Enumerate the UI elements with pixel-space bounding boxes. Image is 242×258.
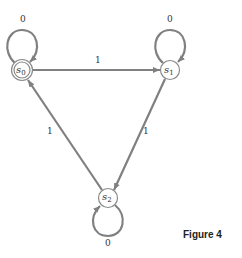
edge-label-s0-s1: 1 bbox=[95, 55, 101, 65]
transition-s2-s2: 0 bbox=[93, 205, 123, 248]
loop-label-s1: 0 bbox=[167, 14, 173, 24]
loop-label-s0: 0 bbox=[20, 14, 26, 24]
state-s2: s2 bbox=[99, 189, 118, 208]
transition-s1-s2: 1 bbox=[114, 79, 165, 190]
figure-caption: Figure 4 bbox=[183, 229, 222, 240]
transition-s0-s1: 1 bbox=[32, 55, 160, 70]
transition-s0-s0: 0 bbox=[7, 14, 37, 63]
transition-s2-s0: 1 bbox=[28, 80, 102, 190]
state-s1: s1 bbox=[161, 61, 180, 80]
state-s0: s0 bbox=[12, 60, 33, 81]
edge-label-s1-s2: 1 bbox=[143, 126, 149, 136]
loop-label-s2: 0 bbox=[105, 238, 111, 248]
state-diagram: 0 0 0 1 1 1 s0 s1 s2 bbox=[0, 0, 242, 258]
edge-label-s2-s0: 1 bbox=[47, 126, 53, 136]
transition-s1-s1: 0 bbox=[155, 14, 185, 63]
